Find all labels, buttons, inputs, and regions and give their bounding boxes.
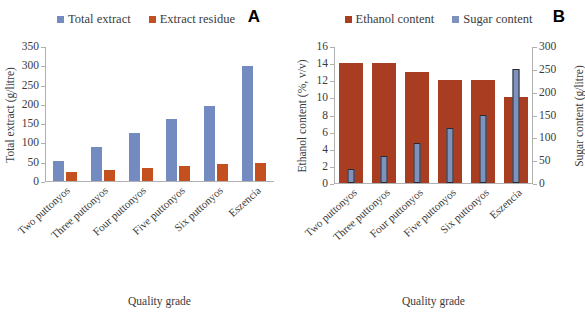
x-label-slot: Two puttonyos [334, 184, 367, 185]
x-label-slot: Four puttonyos [400, 184, 433, 185]
panel-b-left-y-axis-tick [330, 133, 334, 134]
panel-a-y-axis-tick-label: 50 [28, 157, 40, 169]
bar-total-extract [53, 161, 64, 181]
bar-extract-residue [255, 163, 266, 182]
legend-entry: Ethanol content [345, 13, 435, 26]
panel-a-y-axis-tick-label: 350 [22, 41, 39, 53]
bar-group [335, 47, 368, 183]
bar-group [197, 47, 235, 181]
panel-a-letter: A [248, 7, 260, 27]
bar-total-extract [166, 119, 177, 181]
bar-ethanol-content [339, 63, 363, 183]
x-label-slot: Two puttonyos [45, 182, 83, 183]
legend-entry: Total extract [57, 13, 131, 26]
x-label-slot: Five puttonyos [434, 184, 467, 185]
legend-label: Total extract [68, 13, 131, 26]
panel-b-right-y-axis-tick-label: 300 [539, 41, 556, 53]
panel-b-left-y-axis-tick [330, 150, 334, 151]
legend-swatch-icon [57, 16, 64, 23]
panel-b-right-y-axis-tick-label: 50 [539, 155, 551, 167]
panel-b-right-y-axis-tick-label: 100 [539, 133, 556, 145]
panel-a-y-axis-tick [41, 86, 45, 87]
panel-b-right-y-axis-tick-label: 200 [539, 87, 556, 99]
panel-b-bar-groups [335, 47, 532, 183]
bar-sugar-content [348, 169, 355, 183]
bar-group [368, 47, 401, 183]
bar-total-extract [204, 106, 215, 181]
bar-total-extract [242, 66, 253, 181]
x-label-slot: Eszencia [500, 184, 533, 185]
panel-a-plot-area: 350300250200150100500 [45, 47, 274, 182]
panel-b-left-y-axis-tick-label: 12 [317, 76, 329, 88]
x-category-label: Eszencia [487, 186, 524, 221]
panel-a-bar-groups [46, 47, 273, 181]
panel-b-left-y-axis-tick [330, 116, 334, 117]
bar-group [433, 47, 466, 183]
panel-b-left-y-axis-title: Ethanol content (%, v/v) [296, 59, 308, 172]
bar-group [159, 47, 197, 181]
figure-two-panel-bar-charts: Total extractExtract residue A Total ext… [0, 0, 585, 315]
panel-a-y-axis-tick-label: 0 [33, 176, 39, 188]
panel-a-y-axis-tick-label: 150 [22, 118, 39, 130]
panel-b-left-y-axis-tick [330, 47, 334, 48]
panel-b-left-y-axis-tick-label: 10 [317, 93, 329, 105]
panel-b-right-y-axis-tick-label: 250 [539, 64, 556, 76]
bar-group [466, 47, 499, 183]
x-label-slot: Four puttonyos [121, 182, 159, 183]
x-label-slot: Three puttonyos [83, 182, 121, 183]
panel-a-x-axis-title: Quality grade [128, 295, 191, 307]
bar-sugar-content [512, 69, 519, 183]
panel-b-left-y-axis-tick [330, 98, 334, 99]
panel-b-left-y-axis-tick-label: 8 [322, 110, 328, 122]
panel-a-y-axis-tick [41, 66, 45, 67]
legend-label: Ethanol content [356, 13, 435, 26]
panel-b-right-y-axis-tick [533, 138, 537, 139]
panel-b-left-y-axis-tick [330, 81, 334, 82]
panel-b-right-y-axis-tick-label: 150 [539, 110, 556, 122]
legend-swatch-icon [149, 16, 156, 23]
bar-extract-residue [104, 170, 115, 181]
bar-group [122, 47, 160, 181]
panel-b-left-y-axis-tick-label: 6 [322, 127, 328, 139]
panel-a-y-axis-tick [41, 143, 45, 144]
panel-b: Ethanol contentSugar content B Ethanol c… [292, 0, 585, 315]
x-label-slot: Five puttonyos [160, 182, 198, 183]
panel-a-y-axis-tick [41, 47, 45, 48]
legend-label: Extract residue [160, 13, 235, 26]
x-category-label: Eszencia [226, 184, 263, 219]
panel-b-left-y-axis-tick-label: 2 [322, 161, 328, 173]
bar-group [46, 47, 84, 181]
panel-a-y-axis-tick-label: 100 [22, 138, 39, 150]
panel-a-y-axis-tick [41, 124, 45, 125]
bar-extract-residue [217, 164, 228, 181]
panel-b-left-y-axis-tick-label: 14 [317, 58, 329, 70]
panel-b-right-y-axis-tick [533, 161, 537, 162]
panel-b-left-y-axis-tick-label: 16 [317, 41, 329, 53]
legend-entry: Extract residue [149, 13, 235, 26]
panel-a: Total extractExtract residue A Total ext… [0, 0, 292, 315]
bar-total-extract [91, 147, 102, 181]
x-label-slot: Eszencia [236, 182, 274, 183]
panel-a-y-axis-tick [41, 163, 45, 164]
bar-group [401, 47, 434, 183]
panel-b-left-y-axis-tick [330, 167, 334, 168]
panel-b-right-y-axis-tick-label: 0 [539, 178, 545, 190]
bar-sugar-content [446, 128, 453, 183]
x-label-slot: Six puttonyos [467, 184, 500, 185]
panel-b-right-y-axis-title: Sugar content (g/litre) [573, 65, 585, 167]
panel-b-left-y-axis-tick-label: 4 [322, 144, 328, 156]
bar-group [84, 47, 122, 181]
panel-b-legend: Ethanol contentSugar content [292, 13, 585, 26]
panel-b-right-y-axis-tick [533, 184, 537, 185]
panel-a-y-axis-title: Total extract (g/litre) [4, 67, 16, 163]
panel-b-right-y-axis-tick [533, 70, 537, 71]
panel-b-right-y-axis-tick [533, 116, 537, 117]
panel-a-x-category-labels: Two puttonyosThree puttonyosFour puttony… [45, 182, 274, 183]
bar-extract-residue [179, 166, 190, 181]
bar-sugar-content [479, 115, 486, 184]
panel-b-right-y-axis-tick [533, 93, 537, 94]
legend-label: Sugar content [463, 13, 532, 26]
panel-a-y-axis-tick-label: 300 [22, 61, 39, 73]
panel-b-plot-area: 1614121086420300250200150100500 [334, 47, 533, 184]
panel-a-y-axis-tick [41, 105, 45, 106]
